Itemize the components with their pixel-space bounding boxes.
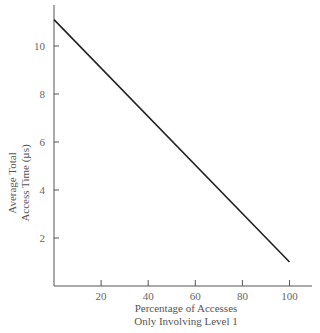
line-chart: 246810 20406080100 Average Total Access … [0, 0, 320, 333]
x-tick-label: 100 [281, 290, 298, 302]
y-axis: 246810 [34, 5, 59, 286]
y-axis-label-line2: Access Time (µs) [19, 144, 32, 222]
y-tick-label: 4 [40, 184, 46, 196]
y-tick-label: 10 [34, 40, 46, 52]
x-tick-label: 60 [190, 290, 202, 302]
y-tick-label: 6 [40, 136, 46, 148]
x-tick-label: 20 [96, 290, 108, 302]
x-axis: 20406080100 [54, 280, 312, 302]
y-tick-label: 8 [40, 88, 46, 100]
data-series [54, 20, 290, 262]
series-line [54, 20, 290, 262]
y-axis-label-line1: Average Total [6, 152, 18, 213]
x-axis-label-line1: Percentage of Accesses [135, 302, 238, 314]
y-tick-label: 2 [40, 232, 46, 244]
clipped-caption-fragment [0, 326, 320, 333]
x-tick-label: 80 [237, 290, 249, 302]
x-tick-label: 40 [143, 290, 155, 302]
